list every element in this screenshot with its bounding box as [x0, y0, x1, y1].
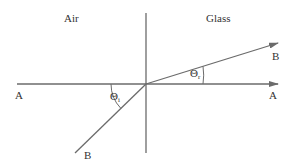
point-b-incident-label: B: [84, 150, 91, 161]
point-a-left-label: A: [15, 90, 23, 101]
incident-angle-label: Θi: [110, 91, 120, 104]
air-region-label: Air: [64, 13, 79, 24]
glass-region-label: Glass: [206, 13, 230, 24]
refracted-angle-arc: [203, 66, 204, 84]
incident-angle-subscript: i: [118, 96, 120, 104]
refraction-diagram: [0, 0, 297, 167]
refracted-angle-symbol: Θ: [190, 67, 198, 79]
point-b-refracted-label: B: [272, 51, 279, 62]
refracted-angle-label: Θr: [190, 68, 200, 81]
refracted-angle-subscript: r: [198, 73, 200, 81]
point-a-right-label: A: [269, 90, 277, 101]
incident-angle-symbol: Θ: [110, 90, 118, 102]
refracted-ray-line: [146, 43, 278, 84]
